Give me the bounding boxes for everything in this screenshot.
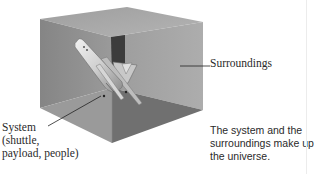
caption-line-1: The system and the bbox=[210, 124, 314, 137]
system-label: System (shuttle, payload, people) bbox=[2, 121, 79, 160]
page-margin-rule bbox=[306, 0, 307, 174]
system-label-line-3: payload, people) bbox=[2, 147, 79, 160]
figure-caption: The system and the surroundings make up … bbox=[210, 124, 314, 163]
system-label-line-1: System bbox=[2, 121, 79, 134]
system-surroundings-diagram: System (shuttle, payload, people) Surrou… bbox=[0, 0, 318, 174]
caption-line-3: the universe. bbox=[210, 150, 314, 163]
caption-line-2: surroundings make up bbox=[210, 137, 314, 150]
surroundings-label: Surroundings bbox=[210, 57, 272, 70]
system-label-line-2: (shuttle, bbox=[2, 134, 79, 147]
